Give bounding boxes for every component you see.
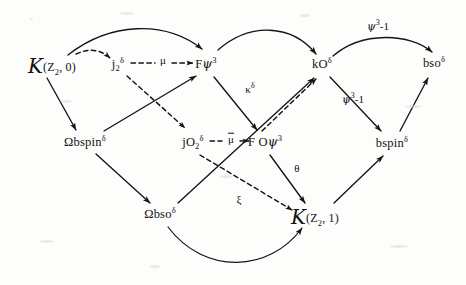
edge-kOd-to-bsod <box>333 37 432 56</box>
jO2-base: jO <box>182 135 195 149</box>
psi-glyph-4: ψ <box>342 93 351 106</box>
node-omega-bso-delta[interactable]: Ωbsoδ <box>144 208 176 221</box>
psi-glyph-3: ψ <box>367 20 376 33</box>
jO2-subscript: 2 <box>195 141 199 151</box>
edge-label-mu-bar: μ <box>228 133 234 146</box>
paper-speck <box>150 265 160 268</box>
psi-glyph: ψ <box>202 56 212 71</box>
node-kz21[interactable]: K(Z2, 1) <box>291 205 339 225</box>
edge-label-psi3-minus-1-mid: ψ3-1 <box>342 94 364 105</box>
edge-kz20-to-obspind <box>47 78 76 130</box>
edge-j2d-to-jO2d-dashed <box>127 76 185 128</box>
diagram-canvas: Fpsi3 --> FOpsi3 --> kO^d --> K(Z2,1) --… <box>0 0 466 285</box>
mu-glyph: μ <box>160 54 166 66</box>
psi-mid-suffix: -1 <box>355 93 364 105</box>
script-k-glyph-2: K <box>291 205 306 229</box>
edge-obspind-to-fpsi3 <box>104 76 196 131</box>
fpsi-superscript: 3 <box>212 55 216 65</box>
edge-kz21-to-bspind <box>334 156 383 203</box>
node-jO2-delta[interactable]: jO2δ <box>182 136 204 149</box>
kO-superscript: δ <box>328 55 332 65</box>
bso-base: bso <box>423 56 441 70</box>
FOpsi-superscript: 3 <box>278 133 282 143</box>
mu-bar-glyph: μ <box>228 133 234 146</box>
edge-label-kappa-delta: κδ <box>245 84 254 95</box>
node-FO-psi-3[interactable]: F Oψ3 <box>248 136 282 149</box>
obso-base: Ωbso <box>144 207 171 221</box>
paper-speck <box>30 18 33 20</box>
paper-speck <box>405 105 421 108</box>
obso-superscript: δ <box>172 205 176 215</box>
kz20-tail: , 0) <box>59 60 76 74</box>
bspin-superscript: δ <box>404 134 408 144</box>
FOpsi-base: F O <box>248 135 268 149</box>
node-kO-delta[interactable]: kOδ <box>312 58 332 71</box>
node-bspin-delta[interactable]: bspinδ <box>376 137 408 150</box>
paper-speck <box>300 14 310 17</box>
kO-base: kO <box>312 57 328 71</box>
edge-label-psi3-minus-1-top: ψ3-1 <box>367 21 389 32</box>
edge-label-mu: μ <box>160 55 166 66</box>
edge-label-xi: ξ <box>237 194 242 205</box>
obspin-superscript: δ <box>102 133 106 143</box>
node-kz20[interactable]: K(Z2, 0) <box>28 54 76 74</box>
j2-superscript: δ <box>120 55 124 65</box>
j2-subscript: 2 <box>116 63 120 73</box>
paper-speck <box>220 175 232 178</box>
xi-glyph: ξ <box>237 193 242 205</box>
paper-speck <box>390 245 408 248</box>
kappa-superscript: δ <box>251 81 255 90</box>
kz21-paren: (Z <box>306 211 318 225</box>
node-bso-delta[interactable]: bsoδ <box>423 57 445 70</box>
edge-label-theta: θ <box>294 163 299 174</box>
node-omega-bspin-delta[interactable]: Ωbspinδ <box>64 136 106 149</box>
kz21-tail: , 1) <box>322 211 339 225</box>
node-j2-delta[interactable]: j2δ <box>112 58 124 71</box>
edge-obsod-to-kz21 <box>168 227 302 262</box>
edge-obspind-to-obsod <box>96 154 150 203</box>
edge-FOpsi3-to-kOd-dashed <box>262 79 316 131</box>
jO2-superscript: δ <box>200 133 204 143</box>
node-f-psi-3[interactable]: Fψ3 <box>195 58 217 71</box>
obspin-base: Ωbspin <box>64 135 102 149</box>
script-k-glyph: K <box>28 54 43 78</box>
bspin-base: bspin <box>376 136 404 150</box>
edge-jO2d-to-kz21-dashed <box>200 155 292 210</box>
kz20-paren: (Z <box>43 60 55 74</box>
psi-top-suffix: -1 <box>380 20 389 32</box>
psi-glyph-2: ψ <box>268 134 278 149</box>
edge-fpsi3-to-kOd <box>218 30 316 54</box>
edge-FOpsi3-to-kz21 <box>270 155 305 203</box>
bso-superscript: δ <box>441 54 445 64</box>
edge-kz20-to-j2d-dashed <box>76 50 110 58</box>
theta-glyph: θ <box>294 162 299 174</box>
paper-speck <box>40 240 54 243</box>
paper-speck <box>60 100 72 103</box>
paper-speck <box>120 12 134 15</box>
